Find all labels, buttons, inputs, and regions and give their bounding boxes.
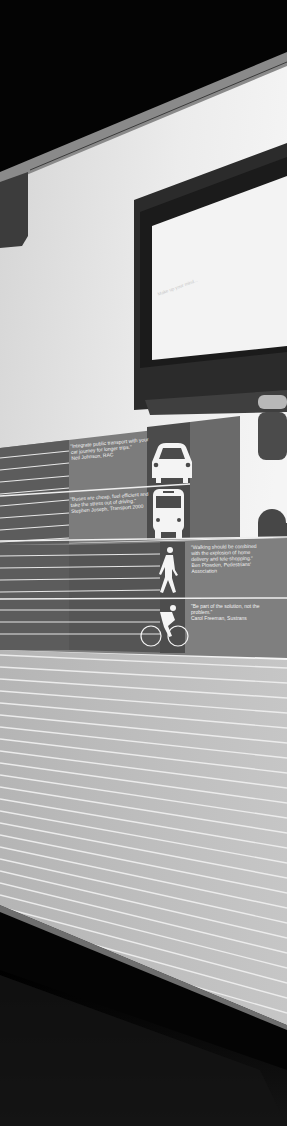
- quote-pedestrian: "Walking should be combined with the exp…: [191, 543, 257, 574]
- image-border: [287, 0, 303, 1126]
- photo-scene: Make up your mind... "Integrate public t…: [0, 0, 303, 1126]
- quote-cyclist: "Be part of the solution, not the proble…: [191, 603, 260, 621]
- car-icon: [152, 443, 192, 483]
- bus-icon: [153, 489, 184, 538]
- wall-photo: [0, 0, 303, 1126]
